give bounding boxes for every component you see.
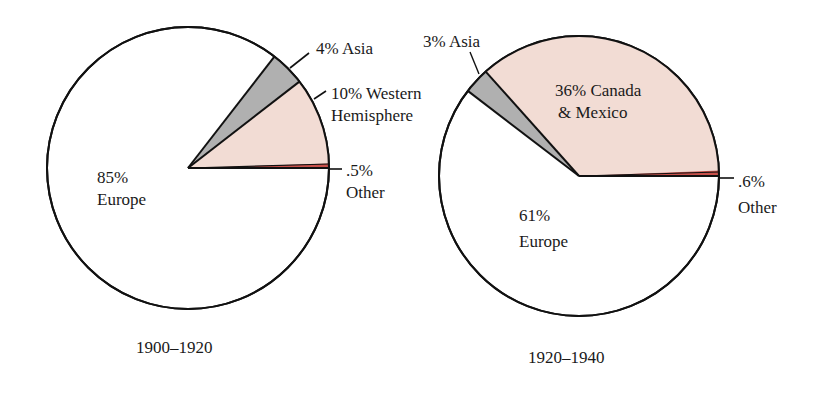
label-western-1900: 10% Western Hemisphere	[331, 83, 421, 127]
label-western-line1: 10% Western	[331, 83, 421, 105]
label-europe-1920: 61% Europe	[519, 205, 568, 253]
leader-asia	[290, 53, 309, 68]
caption-1920-1940: 1920–1940	[528, 348, 605, 368]
label-other-name: Other	[738, 197, 777, 219]
label-europe-pct: 85%	[97, 167, 146, 189]
label-asia-1920: 3% Asia	[423, 31, 480, 53]
label-canada-1920: 36% Canada & Mexico	[555, 80, 641, 124]
label-other-pct: .6%	[738, 171, 777, 193]
label-western-line2: Hemisphere	[331, 105, 421, 127]
label-asia-1900: 4% Asia	[316, 38, 373, 60]
label-other-pct: .5%	[346, 160, 385, 182]
leader-western	[314, 91, 326, 99]
label-europe-1900: 85% Europe	[97, 167, 146, 211]
label-other-1920: .6% Other	[738, 171, 777, 219]
label-canada-line1: 36% Canada	[555, 80, 641, 102]
label-europe-name: Europe	[519, 231, 568, 253]
label-europe-name: Europe	[97, 189, 146, 211]
pie-chart-1920-1940	[439, 36, 734, 316]
label-other-1900: .5% Other	[346, 160, 385, 204]
caption-1900-1920: 1900–1920	[136, 338, 213, 358]
label-europe-pct: 61%	[519, 205, 568, 227]
pie-chart-1900-1920	[47, 27, 342, 309]
label-other-name: Other	[346, 182, 385, 204]
label-canada-line2: & Mexico	[555, 102, 641, 124]
leader-asia	[470, 52, 479, 74]
